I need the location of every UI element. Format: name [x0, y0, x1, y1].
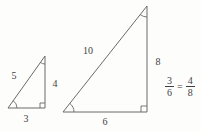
left-hypotenuse-label: 5 — [12, 70, 17, 81]
right-right-angle-icon — [141, 106, 147, 112]
right-hypotenuse-label: 10 — [83, 45, 93, 56]
similar-triangles-diagram: 5 4 3 10 8 6 3 6 = 4 8 — [0, 0, 201, 132]
right-base-label: 6 — [103, 116, 108, 127]
lhs-denominator: 6 — [165, 87, 174, 98]
equals-sign: = — [177, 81, 183, 93]
proportion-equation: 3 6 = 4 8 — [165, 75, 195, 98]
left-base-label: 3 — [24, 113, 29, 124]
right-triangle: 10 8 6 — [63, 6, 161, 127]
right-vertical-side-label: 8 — [156, 56, 161, 67]
left-triangle-outline — [8, 56, 45, 108]
right-triangle-outline — [63, 6, 147, 112]
rhs-fraction: 4 8 — [186, 75, 195, 98]
left-vertical-side-label: 4 — [53, 78, 58, 89]
right-apex-angle-arc-icon — [140, 15, 147, 17]
lhs-fraction: 3 6 — [165, 75, 174, 98]
lhs-numerator: 3 — [165, 75, 174, 87]
rhs-numerator: 4 — [186, 75, 195, 87]
rhs-denominator: 8 — [186, 87, 195, 98]
left-right-angle-icon — [40, 103, 45, 108]
triangles-canvas: 5 4 3 10 8 6 — [0, 0, 201, 132]
left-base-angle-arc-icon — [13, 101, 17, 108]
left-triangle: 5 4 3 — [8, 56, 58, 124]
left-apex-angle-arc-icon — [40, 63, 45, 65]
right-base-angle-arc-icon — [70, 103, 74, 112]
